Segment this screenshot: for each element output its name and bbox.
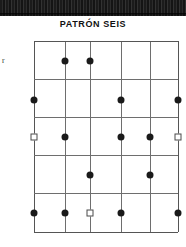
pattern-marker-square-r5c2 [87,210,94,217]
grid-line-horizontal-0 [34,41,178,42]
pattern-marker-square-r3c5 [175,134,182,141]
scan-artifact-band [0,0,186,16]
pattern-marker-dot-r2c5 [175,97,182,104]
pattern-marker-dot-r1c2 [87,58,94,65]
pattern-marker-dot-r2c3 [118,97,125,104]
grid-line-horizontal-1 [34,79,178,80]
pattern-marker-dot-r5c5 [175,210,182,217]
pattern-marker-dot-r4c4 [147,172,154,179]
pattern-marker-dot-r3c3 [118,134,125,141]
pattern-marker-dot-r5c0 [31,210,38,217]
pattern-marker-dot-r3c1 [62,134,69,141]
page-root: PATRÓN SEIS r [0,0,186,247]
pattern-grid [34,41,178,232]
page-title: PATRÓN SEIS [0,19,186,29]
pattern-marker-square-r3c0 [31,134,38,141]
pattern-marker-dot-r1c1 [62,58,69,65]
pattern-marker-dot-r4c2 [87,172,94,179]
grid-line-horizontal-2 [34,117,178,118]
grid-line-horizontal-4 [34,193,178,194]
grid-line-horizontal-5 [34,232,178,233]
pattern-marker-dot-r5c1 [62,210,69,217]
grid-line-vertical-2 [90,41,91,232]
pattern-marker-dot-r2c0 [31,97,38,104]
pattern-marker-dot-r5c3 [118,210,125,217]
pattern-marker-dot-r3c4 [147,134,154,141]
grid-line-horizontal-3 [34,155,178,156]
margin-stray-character: r [2,56,5,65]
